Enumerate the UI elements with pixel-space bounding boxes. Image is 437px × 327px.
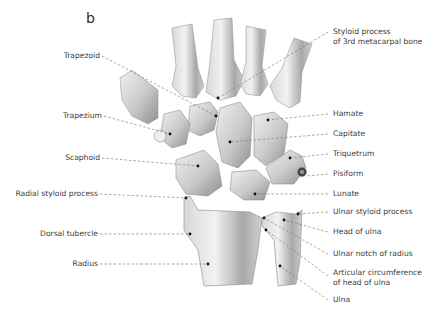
label-radius: Radius bbox=[73, 259, 98, 269]
label-hamate: Hamate bbox=[333, 109, 363, 119]
label-dorsal-tubercle: Dorsal tubercle bbox=[40, 229, 98, 239]
label-capitate: Capitate bbox=[333, 129, 365, 139]
label-trapezoid: Trapezoid bbox=[64, 51, 100, 61]
label-pisiform: Pisiform bbox=[333, 169, 363, 179]
label-trapezium: Trapezium bbox=[63, 111, 102, 121]
label-styloid-3rd-metacarpal: Styloid process of 3rd metacarpal bone bbox=[333, 27, 422, 47]
label-articular-circumference: Articular circumference of head of ulna bbox=[333, 268, 422, 288]
label-ulnar-notch-of-radius: Ulnar notch of radius bbox=[333, 249, 413, 259]
carpals bbox=[154, 102, 307, 200]
label-ulnar-styloid-process: Ulnar styloid process bbox=[333, 207, 412, 217]
label-scaphoid: Scaphoid bbox=[65, 153, 100, 163]
metacarpals bbox=[120, 18, 312, 124]
label-ulna: Ulna bbox=[333, 295, 350, 305]
label-lunate: Lunate bbox=[333, 189, 359, 199]
label-head-of-ulna: Head of ulna bbox=[333, 227, 381, 237]
forearm-bones bbox=[184, 196, 302, 286]
label-radial-styloid-process: Radial styloid process bbox=[15, 189, 98, 199]
label-triquetrum: Triquetrum bbox=[333, 149, 374, 159]
panel-letter: b bbox=[86, 10, 95, 26]
